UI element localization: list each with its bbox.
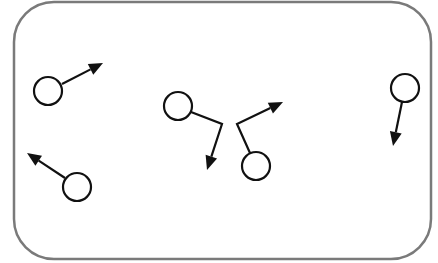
particles-group (27, 63, 419, 201)
velocity-line (191, 112, 222, 157)
velocity-line (396, 102, 402, 132)
particle-diagram (0, 0, 438, 263)
particle-circle (391, 74, 419, 102)
arrowhead-icon (390, 131, 402, 146)
velocity-line (237, 108, 270, 153)
particle (164, 92, 222, 170)
particle (27, 153, 91, 201)
particle-circle (242, 152, 270, 180)
arrowhead-icon (27, 153, 42, 166)
particle (34, 63, 103, 105)
particle (390, 74, 419, 146)
velocity-line (39, 161, 65, 178)
velocity-line (62, 69, 91, 84)
particle-circle (63, 173, 91, 201)
particle (237, 102, 283, 180)
particle-circle (164, 92, 192, 120)
container-box (14, 2, 431, 259)
diagram-svg (0, 0, 438, 263)
arrowhead-icon (206, 155, 217, 170)
particle-circle (34, 77, 62, 105)
